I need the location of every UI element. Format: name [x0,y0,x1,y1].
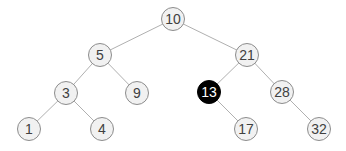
tree-node-4: 4 [90,117,114,141]
tree-node-5: 5 [88,43,112,67]
tree-node-32: 32 [307,117,331,141]
tree-node-1: 1 [17,117,41,141]
tree-node-17: 17 [234,117,258,141]
tree-node-21: 21 [235,43,259,67]
tree-node-10: 10 [161,7,185,31]
binary-tree-diagram: 10 5 21 3 9 13 28 1 4 17 32 [0,0,346,151]
tree-node-13-highlighted: 13 [197,80,221,104]
tree-node-9: 9 [125,81,149,105]
tree-node-3: 3 [54,81,78,105]
tree-node-28: 28 [270,80,294,104]
